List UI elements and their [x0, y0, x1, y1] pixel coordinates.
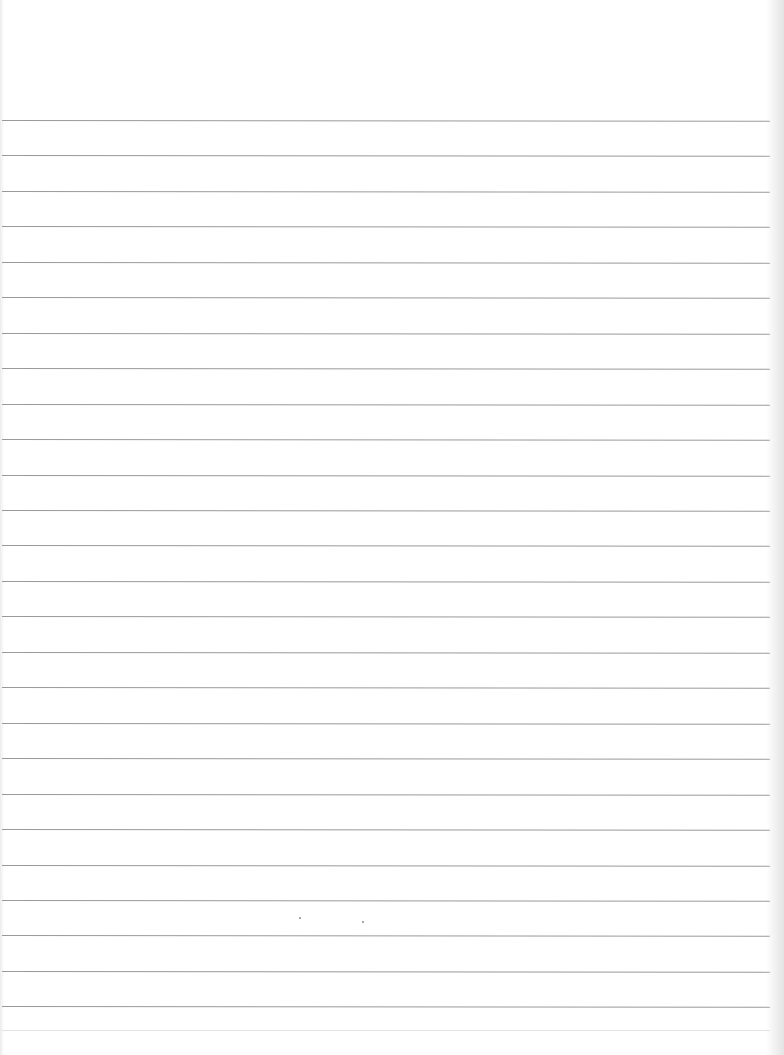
ruled-line — [2, 439, 770, 441]
ruled-line — [2, 829, 770, 831]
ruled-line — [2, 935, 770, 937]
ruled-line — [2, 368, 770, 370]
ruled-line — [2, 333, 770, 335]
ruled-line — [2, 120, 770, 122]
ruled-line — [2, 971, 770, 973]
ruled-line — [2, 1006, 770, 1008]
ruled-line — [2, 652, 770, 654]
ruled-line — [2, 191, 770, 193]
ruled-line — [2, 155, 770, 157]
lined-paper-sheet — [0, 0, 784, 1055]
ruled-line-faint-bottom — [2, 1030, 770, 1031]
ruled-line — [2, 865, 770, 867]
left-paper-edge — [0, 0, 4, 1055]
ruled-line — [2, 900, 770, 902]
ruled-line — [2, 687, 770, 689]
paper-speck — [299, 917, 301, 919]
ruled-line — [2, 226, 770, 228]
ruled-line — [2, 545, 770, 547]
paper-speck — [362, 921, 364, 923]
ruled-line — [2, 475, 770, 477]
ruled-line — [2, 616, 770, 618]
ruled-line — [2, 297, 770, 299]
ruled-line — [2, 404, 770, 406]
ruled-line — [2, 510, 770, 512]
ruled-line — [2, 723, 770, 725]
ruled-line — [2, 794, 770, 796]
ruled-line — [2, 758, 770, 760]
ruled-line — [2, 581, 770, 583]
ruled-line — [2, 262, 770, 264]
right-paper-edge-shadow — [766, 0, 784, 1055]
